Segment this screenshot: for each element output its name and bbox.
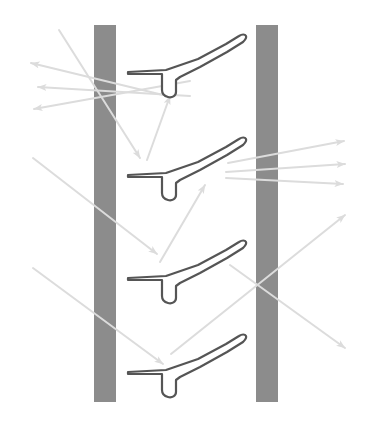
blade-cascade-figure [0,0,370,424]
figure-canvas [0,0,370,424]
right-wall [256,25,278,402]
